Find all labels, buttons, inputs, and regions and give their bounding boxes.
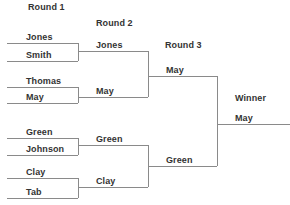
round-2-header: Round 2 [96,18,133,28]
round1-entry-7: Clay [26,167,45,177]
winner-line [217,124,290,125]
round3-line-2 [148,166,217,167]
round2-connector-1 [148,51,149,97]
round1-line-2 [7,61,78,62]
round3-entry-1: May [166,65,184,75]
round1-line-8 [7,198,78,199]
round1-line-1 [7,43,78,44]
round1-connector-3 [78,138,79,155]
round3-line-1 [148,76,217,77]
round1-entry-2: Smith [26,50,52,60]
round1-entry-1: Jones [26,32,53,42]
round1-connector-2 [78,87,79,103]
round1-connector-1 [78,43,79,61]
round1-entry-4: May [26,92,44,102]
round3-entry-2: Green [166,155,193,165]
round1-line-7 [7,178,78,179]
round1-line-5 [7,138,78,139]
round1-entry-5: Green [26,127,53,137]
round1-connector-4 [78,178,79,198]
round-3-header: Round 3 [165,40,202,50]
round2-line-1 [78,51,148,52]
round2-entry-2: May [96,86,114,96]
round-1-header: Round 1 [28,2,65,12]
round2-entry-1: Jones [96,40,123,50]
round1-entry-8: Tab [26,187,42,197]
round2-line-2 [78,97,148,98]
round1-entry-6: Johnson [26,144,64,154]
round1-line-4 [7,103,78,104]
round2-line-3 [78,145,148,146]
round2-entry-4: Clay [96,176,115,186]
round2-entry-3: Green [96,134,123,144]
round1-entry-3: Thomas [26,76,61,86]
round3-connector [217,76,218,166]
round1-line-3 [7,87,78,88]
round1-line-6 [7,155,78,156]
winner-entry: May [235,113,253,123]
round2-line-4 [78,187,148,188]
winner-header: Winner [235,93,266,103]
